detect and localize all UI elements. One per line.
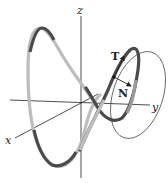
curve-dark-segment bbox=[34, 130, 76, 166]
curve-diagram: z y x T N bbox=[0, 0, 168, 183]
z-axis-label: z bbox=[76, 4, 83, 17]
tangent-label: T bbox=[111, 50, 120, 63]
normal-label: N bbox=[118, 87, 128, 100]
x-axis-label: x bbox=[5, 134, 12, 147]
y-axis-label: y bbox=[151, 101, 159, 114]
diagram-svg: z y x T N bbox=[0, 0, 168, 183]
